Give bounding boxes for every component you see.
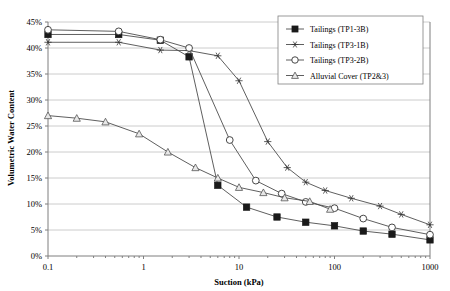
- marker-star: [214, 53, 221, 59]
- marker-triangle: [44, 112, 51, 119]
- marker-triangle: [192, 164, 199, 171]
- marker-open-circle: [360, 215, 367, 222]
- marker-star: [235, 78, 242, 84]
- marker-filled-square: [331, 223, 337, 229]
- y-tick-label: 5%: [31, 225, 42, 235]
- legend-label: Tailings (TP1-3B): [310, 25, 369, 34]
- marker-filled-square: [303, 219, 309, 225]
- y-tick-label: 0%: [31, 251, 42, 261]
- x-tick-label: 1000: [422, 262, 439, 272]
- water-retention-curve-chart: 0%5%10%15%20%25%30%35%40%45% 0.111010010…: [0, 0, 450, 291]
- marker-filled-square: [243, 204, 249, 210]
- marker-filled-square: [389, 231, 395, 237]
- x-tick-label: 10: [235, 262, 244, 272]
- marker-open-circle: [389, 224, 396, 231]
- y-tick-label: 40%: [26, 43, 42, 53]
- x-tick-label: 100: [328, 262, 341, 272]
- marker-triangle: [136, 130, 143, 137]
- marker-star: [115, 39, 122, 45]
- x-tick-label: 1: [141, 262, 145, 272]
- marker-open-circle: [45, 26, 52, 33]
- marker-filled-square: [360, 228, 366, 234]
- marker-filled-square: [274, 214, 280, 220]
- legend-label: Tailings (TP3-2B): [310, 56, 369, 65]
- marker-filled-square: [215, 182, 221, 188]
- marker-open-circle: [252, 177, 259, 184]
- y-tick-label: 30%: [26, 95, 42, 105]
- y-tick-label: 15%: [26, 173, 42, 183]
- marker-filled-square: [186, 54, 192, 60]
- y-tick-label: 45%: [26, 17, 42, 27]
- marker-triangle: [235, 184, 242, 191]
- marker-open-circle: [157, 36, 164, 43]
- y-tick-label: 10%: [26, 199, 42, 209]
- marker-open-circle: [115, 28, 122, 35]
- marker-filled-square: [292, 26, 298, 32]
- y-tick-label: 35%: [26, 69, 42, 79]
- marker-open-circle: [292, 57, 298, 63]
- marker-open-circle: [186, 45, 193, 52]
- x-axis-title: Suction (kPa): [214, 277, 264, 287]
- marker-star: [398, 211, 405, 217]
- marker-star: [264, 138, 271, 144]
- legend-label: Tailings (TP3-1B): [310, 41, 369, 50]
- series-4: [44, 112, 333, 212]
- marker-open-circle: [427, 231, 434, 238]
- y-tick-label: 25%: [26, 121, 42, 131]
- legend-label: Alluvial Cover (TP2&3): [310, 72, 389, 81]
- marker-star: [322, 187, 329, 193]
- series-line: [48, 116, 330, 210]
- y-axis-tick-labels: 0%5%10%15%20%25%30%35%40%45%: [26, 17, 42, 261]
- x-axis-tick-labels: 0.11101001000: [43, 262, 439, 272]
- y-tick-label: 20%: [26, 147, 42, 157]
- marker-star: [348, 195, 355, 201]
- marker-open-circle: [226, 137, 233, 144]
- y-axis-title: Volumetric Water Content: [6, 90, 16, 186]
- chart-container: 0%5%10%15%20%25%30%35%40%45% 0.111010010…: [0, 0, 450, 291]
- x-tick-label: 0.1: [43, 262, 54, 272]
- legend: Tailings (TP1-3B)Tailings (TP3-1B)Tailin…: [278, 16, 423, 84]
